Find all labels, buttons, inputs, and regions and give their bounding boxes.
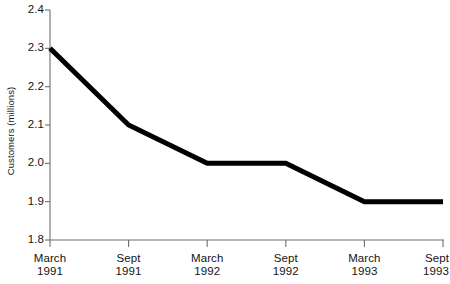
x-tick-label-year: 1991	[13, 265, 87, 278]
x-tick-label-year: 1992	[249, 265, 323, 278]
x-tick-label-month: Sept	[274, 252, 298, 264]
line-chart: 2.42.32.22.12.01.91.8 March1991Sept1991M…	[0, 0, 450, 284]
x-tick-label-month: March	[34, 252, 66, 264]
x-tick-label-year: 1992	[170, 265, 244, 278]
x-tick-label: March1991	[13, 252, 87, 278]
x-tick-label-month: Sept	[425, 252, 449, 264]
x-tick-label: Sept1992	[249, 252, 323, 278]
x-tick-label: Sept1993	[375, 252, 449, 278]
x-tick-label: March1992	[170, 252, 244, 278]
y-axis-title: Customers (millions)	[6, 71, 16, 191]
x-tick-label-month: Sept	[117, 252, 141, 264]
x-tick-label-year: 1993	[375, 265, 449, 278]
x-tick-label-month: March	[191, 252, 223, 264]
x-tick-label: Sept1991	[92, 252, 166, 278]
x-axis-tick-labels: March1991Sept1991March1992Sept1992March1…	[0, 0, 450, 284]
x-tick-label-year: 1991	[92, 265, 166, 278]
